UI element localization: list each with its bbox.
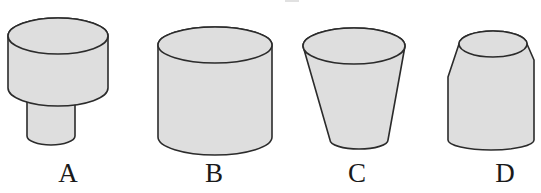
- shape-label-c: C: [337, 160, 377, 187]
- shape-label-b: B: [194, 160, 234, 187]
- shape-label-a: A: [48, 160, 88, 187]
- shape-d-top-ellipse: [459, 31, 527, 57]
- shape-a-graphic: [8, 18, 108, 145]
- shape-a-top-ellipse: [8, 18, 108, 54]
- shape-label-d: D: [485, 160, 525, 187]
- shape-c-top-ellipse: [303, 28, 405, 64]
- shape-d-graphic: [448, 31, 534, 150]
- shape-b-top-ellipse: [158, 27, 272, 63]
- shape-b-graphic: [158, 27, 272, 155]
- figure-panel: A B C D: [0, 0, 541, 193]
- shape-c-graphic: [303, 28, 405, 149]
- scan-artifact: [285, 0, 299, 2]
